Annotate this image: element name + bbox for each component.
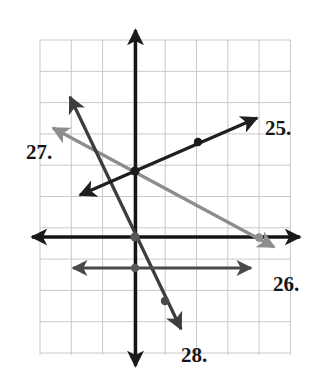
line-27-segment[interactable] [53,128,274,247]
line-26-point [131,264,139,272]
line-27[interactable] [53,128,274,247]
figure-label-28: 28. [181,345,207,366]
grid-lines [40,40,290,355]
line-25-point-intercept [130,166,139,175]
figure-label-27: 27. [26,142,52,163]
figure-label-25: 25. [265,118,291,139]
axes [32,30,300,366]
line-28[interactable] [70,97,181,329]
line-25-point [194,138,202,146]
line-28-point-origin [130,232,139,241]
figure-label-26: 26. [273,274,299,295]
line-28-point [161,297,169,305]
coordinate-graph [0,0,326,377]
figure-canvas: 25. 26. 27. 28. [0,0,326,377]
line-28-segment[interactable] [70,97,181,329]
line-27-point [255,233,263,241]
line-26[interactable] [73,264,251,272]
